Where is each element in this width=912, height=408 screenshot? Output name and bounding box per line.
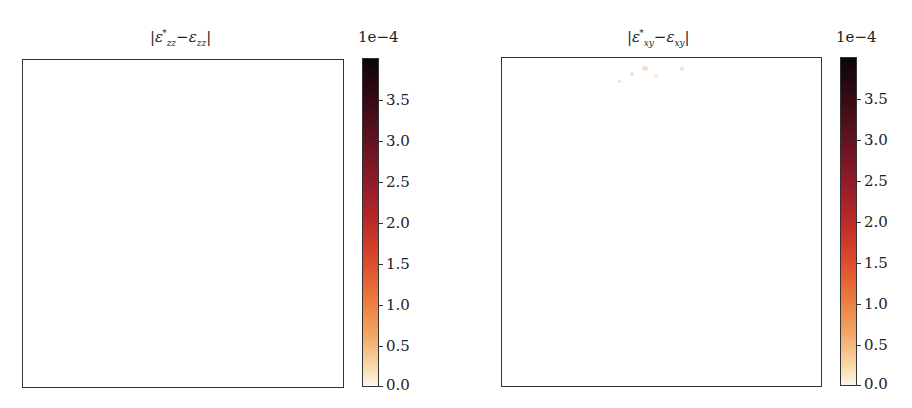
colorbar-tick-label: 1.5 [864, 256, 888, 271]
colorbar-xy [840, 57, 857, 386]
heatmap-speck [654, 74, 658, 77]
colorbar-tick [856, 140, 861, 141]
title-sub2: xy [674, 38, 684, 48]
colorbar-tick-label: 1.0 [864, 297, 888, 312]
colorbar-tick [856, 345, 861, 346]
colorbar-tick [856, 263, 861, 264]
colorbar-tick-label: 3.0 [864, 133, 888, 148]
panel-strain-xy: |ε*xy−εxy| 1e−4 3.5 3.0 2.5 2.0 1.5 1.0 … [0, 0, 912, 408]
colorbar-tick-label: 2.0 [864, 215, 888, 230]
colorbar-tick [856, 99, 861, 100]
heatmap-speck [680, 67, 684, 71]
colorbar-tick-label: 0.5 [864, 338, 888, 353]
title-sub1: xy [644, 38, 654, 48]
heatmap-speck [630, 72, 634, 76]
colorbar-tick [856, 304, 861, 305]
title-minus: − [654, 28, 667, 46]
colorbar-tick [856, 181, 861, 182]
colorbar-tick-label: 0.0 [864, 377, 888, 392]
plot-title-xy: |ε*xy−εxy| [627, 28, 690, 48]
colorbar-tick [856, 385, 861, 386]
title-sup: * [639, 28, 644, 38]
colorbar-tick-label: 2.5 [864, 174, 888, 189]
heatmap-frame-xy [501, 57, 822, 387]
heatmap-speck [618, 80, 621, 83]
colorbar-tick-label: 3.5 [864, 92, 888, 107]
colorbar-tick [856, 222, 861, 223]
heatmap-speck [642, 66, 648, 71]
colorbar-multiplier-xy: 1e−4 [836, 28, 877, 46]
abs-close: | [685, 28, 690, 46]
